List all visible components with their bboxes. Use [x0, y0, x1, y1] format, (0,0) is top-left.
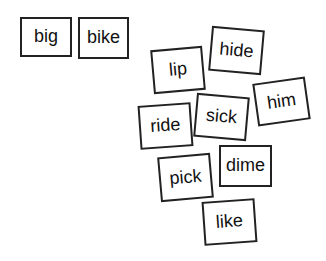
word-label: like — [215, 211, 243, 233]
word-card-like[interactable]: like — [202, 198, 258, 246]
word-card-canvas: big bike lip hide him ride sick pick dim… — [0, 0, 326, 261]
word-card-bike[interactable]: bike — [78, 17, 129, 59]
word-card-hide[interactable]: hide — [208, 26, 265, 75]
word-label: big — [34, 27, 58, 47]
word-label: dime — [226, 156, 265, 176]
word-card-dime[interactable]: dime — [219, 145, 272, 187]
word-card-him[interactable]: him — [252, 77, 310, 127]
word-card-big[interactable]: big — [20, 17, 72, 57]
word-card-lip[interactable]: lip — [150, 46, 206, 94]
word-label: bike — [87, 28, 120, 48]
word-card-sick[interactable]: sick — [193, 93, 250, 141]
word-label: lip — [168, 59, 188, 80]
word-label: him — [266, 90, 298, 114]
word-label: ride — [150, 115, 181, 137]
word-label: sick — [205, 106, 238, 129]
word-label: pick — [169, 166, 203, 189]
word-card-pick[interactable]: pick — [157, 153, 214, 202]
word-label: hide — [219, 39, 255, 62]
word-card-ride[interactable]: ride — [138, 102, 194, 150]
